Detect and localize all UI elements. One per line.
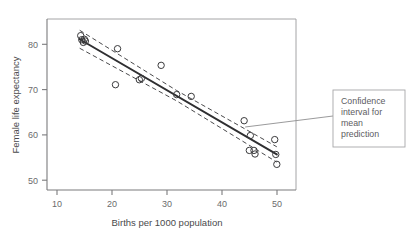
x-tick-label-50: 50 — [272, 199, 282, 209]
y-tick-label-60: 60 — [28, 130, 38, 140]
callout-line-3: mean — [341, 118, 363, 128]
chart-figure: 80 70 60 50 10 20 30 40 50 Births per 10… — [0, 0, 408, 239]
y-axis: 80 70 60 50 — [28, 19, 47, 190]
data-point — [247, 132, 253, 138]
data-point — [114, 46, 120, 52]
data-point — [274, 161, 280, 167]
x-axis: 10 20 30 40 50 — [47, 190, 296, 209]
data-point — [241, 118, 247, 124]
data-point — [252, 151, 258, 157]
data-point — [78, 32, 84, 38]
callout-line-1: Confidence — [341, 96, 386, 106]
callout-leader-line — [245, 116, 333, 127]
data-point — [158, 62, 164, 68]
callout-line-4: prediction — [341, 129, 379, 139]
x-axis-title: Births per 1000 population — [112, 217, 223, 228]
data-point — [112, 82, 118, 88]
y-tick-label-80: 80 — [28, 40, 38, 50]
y-axis-title: Female life expectancy — [10, 56, 21, 153]
x-tick-label-40: 40 — [217, 199, 227, 209]
y-tick-label-70: 70 — [28, 85, 38, 95]
callout-line-2: interval for — [341, 107, 382, 117]
data-points — [78, 32, 280, 167]
y-tick-label-50: 50 — [28, 176, 38, 186]
x-tick-label-20: 20 — [107, 199, 117, 209]
data-point — [272, 136, 278, 142]
plot-panel — [47, 19, 296, 190]
confidence-interval-callout: Confidence interval for mean prediction — [333, 90, 405, 147]
scatter-plot-svg: 80 70 60 50 10 20 30 40 50 Births per 10… — [0, 0, 408, 239]
x-tick-label-10: 10 — [52, 199, 62, 209]
x-tick-label-30: 30 — [162, 199, 172, 209]
